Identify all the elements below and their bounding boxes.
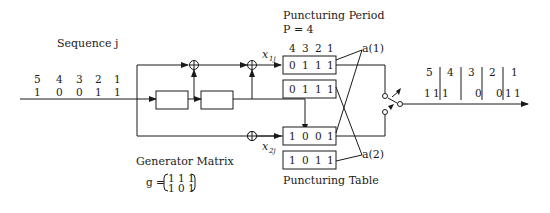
- column-index: 3: [302, 42, 309, 54]
- a2-label: a(2): [362, 148, 384, 161]
- output-bit: 1: [442, 87, 449, 99]
- input-bits: 1 0 0 1 1: [34, 86, 121, 98]
- shift-register-2: [201, 91, 233, 109]
- puncture-bit: 0: [302, 130, 309, 142]
- x1j-label: x: [262, 48, 269, 61]
- output-index: 2: [489, 66, 496, 78]
- puncture-bit: 0: [289, 59, 296, 71]
- puncturing-column-indices: 4 3 2 1: [289, 42, 334, 54]
- x1j-subscript: 1j: [269, 55, 276, 63]
- column-index: 1: [327, 42, 334, 54]
- matrix-row-2: 1 0 1: [168, 182, 195, 194]
- output-bit: 0: [475, 87, 482, 99]
- output-bit: 1: [514, 87, 521, 99]
- puncturing-period-value: P = 4: [283, 23, 314, 36]
- output-index: 4: [447, 66, 454, 78]
- puncture-bit: 0: [289, 83, 296, 95]
- puncturing-period-label: Puncturing Period: [283, 9, 385, 22]
- output-bit: 1: [424, 87, 431, 99]
- generator-matrix-label: Generator Matrix: [136, 155, 235, 168]
- xor-lower-icon: [248, 132, 257, 141]
- xor-1-icon: [190, 61, 199, 70]
- puncture-bit: 1: [302, 83, 309, 95]
- output-bit: 1: [433, 87, 440, 99]
- output-index: 3: [468, 66, 475, 78]
- puncture-bit: 1: [327, 154, 334, 166]
- input-bit: 0: [56, 86, 63, 98]
- puncture-bit: 1: [327, 83, 334, 95]
- input-bit: 1: [95, 86, 102, 98]
- x2j-label: x: [262, 140, 269, 153]
- input-index: 1: [114, 73, 121, 85]
- column-index: 2: [315, 42, 322, 54]
- input-indices: 5 4 3 2 1: [34, 73, 121, 85]
- puncturing-table-label: Puncturing Table: [283, 174, 379, 187]
- output-bit: 1: [505, 87, 512, 99]
- input-bit: 1: [34, 86, 41, 98]
- x2j-subscript: 2j: [268, 147, 276, 155]
- input-index: 5: [34, 73, 41, 85]
- output-bits: 1 1 1 0 0 1 1: [424, 87, 521, 99]
- generator-symbol: g =: [146, 176, 165, 188]
- punctured-encoder-diagram: Sequence j 5 4 3 2 1 1 0 0 1 1: [0, 0, 550, 213]
- puncture-bit: 0: [315, 130, 322, 142]
- output-bit: 0: [496, 87, 503, 99]
- puncture-row-a2-2: 1 0 1 1: [283, 151, 336, 169]
- a2-link-bottom: [336, 155, 362, 161]
- sequence-label: Sequence j: [57, 37, 118, 50]
- puncture-row-a2-1: 1 0 0 1: [283, 127, 336, 145]
- puncture-row-a1-1: 0 1 1 1: [283, 56, 336, 74]
- puncture-row-a1-2: 0 1 1 1: [283, 80, 336, 98]
- input-bit: 1: [114, 86, 121, 98]
- puncture-bit: 1: [327, 59, 334, 71]
- puncture-bit: 1: [315, 59, 322, 71]
- column-index: 4: [289, 42, 296, 54]
- input-bit: 0: [76, 86, 83, 98]
- puncture-bit: 0: [302, 154, 309, 166]
- input-index: 2: [95, 73, 102, 85]
- puncture-bit: 1: [315, 83, 322, 95]
- shift-register-1: [156, 91, 188, 109]
- a1-label: a(1): [362, 42, 384, 55]
- puncture-bit: 1: [289, 130, 296, 142]
- output-index: 5: [426, 66, 433, 78]
- input-index: 4: [56, 73, 63, 85]
- input-index: 3: [76, 73, 83, 85]
- puncture-bit: 1: [302, 59, 309, 71]
- xor-2-icon: [248, 61, 257, 70]
- a1-link-top: [336, 50, 362, 60]
- puncture-bit: 1: [327, 130, 334, 142]
- output-index: 1: [511, 66, 518, 78]
- puncture-bit: 1: [315, 154, 322, 166]
- puncture-bit: 1: [289, 154, 296, 166]
